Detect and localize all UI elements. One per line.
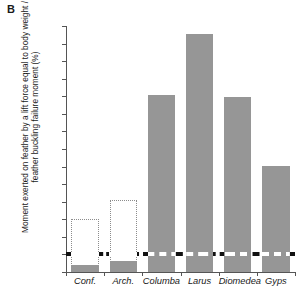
reference-line-segment [251, 252, 262, 256]
x-axis-label-columba: Columba [142, 276, 180, 287]
bar-conf [71, 265, 98, 272]
reference-line-segment [224, 252, 251, 256]
y-axis-tick [62, 149, 66, 150]
x-axis-tick [295, 272, 296, 276]
y-axis-tick [62, 96, 66, 97]
reference-line-segment [175, 252, 186, 256]
y-axis-tick [62, 237, 66, 238]
bar-diomedea [224, 97, 251, 272]
reference-line-segment [262, 252, 289, 256]
reference-line-segment [213, 252, 224, 256]
y-axis-tick [62, 184, 66, 185]
reference-line-segment [290, 252, 295, 256]
y-axis-tick [62, 219, 66, 220]
bar-arch [110, 261, 137, 272]
y-axis-tick [62, 114, 66, 115]
y-axis-tick [62, 61, 66, 62]
y-axis-tick [62, 202, 66, 203]
y-axis-title: Moment exerted on feather by a lift forc… [20, 0, 41, 242]
reference-line-segment [71, 252, 98, 256]
x-axis-label-arch: Arch. [104, 276, 142, 287]
panel-label: B [7, 4, 15, 15]
reference-line-segment [137, 252, 148, 256]
y-axis-line [66, 26, 67, 272]
bar-columba [148, 95, 175, 272]
bar-larus [186, 34, 213, 272]
reference-line-segment [110, 252, 137, 256]
reference-line-segment [99, 252, 110, 256]
x-axis-label-conf: Conf. [66, 276, 104, 287]
x-axis-label-gyps: Gyps [257, 276, 295, 287]
plot-area: 0100200300400500600700800900100011001200… [66, 26, 295, 272]
y-axis-tick [62, 79, 66, 80]
y-axis-tick [62, 167, 66, 168]
y-axis-tick [62, 131, 66, 132]
x-axis-label-diomedea: Diomedea [219, 276, 257, 287]
y-axis-title-wrapper: Moment exerted on feather by a lift forc… [15, 0, 45, 242]
y-axis-tick [62, 44, 66, 45]
y-axis-tick [62, 26, 66, 27]
reference-line-segment [186, 252, 213, 256]
reference-line-segment [148, 252, 175, 256]
figure-panel-b: B Moment exerted on feather by a lift fo… [0, 0, 306, 299]
x-axis-label-larus: Larus [181, 276, 219, 287]
